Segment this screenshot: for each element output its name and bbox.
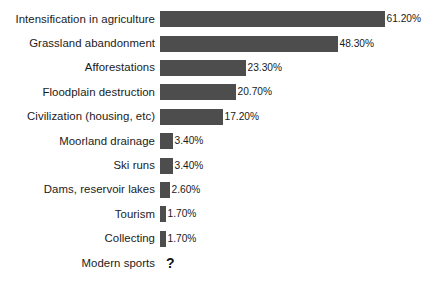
bar-and-value: 17.20% [160, 105, 259, 129]
value-label: 23.30% [246, 62, 282, 74]
bar-and-value: 48.30% [160, 31, 374, 55]
bar [160, 60, 246, 76]
bar-and-value: 20.70% [160, 80, 272, 104]
bar-and-value: 3.40% [160, 153, 203, 177]
bar-row: Grassland abandonment48.30% [0, 31, 437, 55]
value-label-unknown: ? [160, 257, 175, 269]
category-label: Intensification in agriculture [0, 13, 155, 26]
category-label: Dams, reservoir lakes [0, 183, 155, 196]
bar [160, 36, 338, 52]
bar [160, 109, 223, 125]
bar-row: Intensification in agriculture61.20% [0, 7, 437, 31]
bar-row: Dams, reservoir lakes2.60% [0, 178, 437, 202]
value-label: 61.20% [385, 13, 421, 25]
category-label: Floodplain destruction [0, 86, 155, 99]
bar-and-value: 2.60% [160, 178, 200, 202]
value-label: 1.70% [166, 208, 196, 220]
bar [160, 182, 170, 198]
bar-and-value: 23.30% [160, 56, 282, 80]
value-label: 1.70% [166, 233, 196, 245]
bar [160, 11, 385, 27]
bar-row: Ski runs3.40% [0, 153, 437, 177]
bar-and-value: 61.20% [160, 7, 421, 31]
bar-row: Afforestations23.30% [0, 56, 437, 80]
bar-row: Moorland drainage3.40% [0, 129, 437, 153]
bar-row: Floodplain destruction20.70% [0, 80, 437, 104]
value-label: 20.70% [236, 86, 272, 98]
value-label: 48.30% [338, 38, 374, 50]
bar-and-value: 1.70% [160, 202, 196, 226]
value-label: 2.60% [170, 184, 200, 196]
category-label: Ski runs [0, 159, 155, 172]
category-label: Collecting [0, 232, 155, 245]
bar [160, 84, 236, 100]
bar [160, 133, 173, 149]
category-label: Grassland abandonment [0, 37, 155, 50]
category-label: Moorland drainage [0, 135, 155, 148]
bar-and-value: 1.70% [160, 227, 196, 251]
value-label: 3.40% [173, 135, 203, 147]
bar-row: Collecting1.70% [0, 227, 437, 251]
value-label: 3.40% [173, 160, 203, 172]
bar-chart: Intensification in agriculture61.20%Gras… [0, 0, 437, 288]
bar-chart-rows: Intensification in agriculture61.20%Gras… [0, 7, 437, 275]
bar-row: Tourism1.70% [0, 202, 437, 226]
category-label: Tourism [0, 208, 155, 221]
category-label: Afforestations [0, 61, 155, 74]
bar-and-value: ? [160, 251, 175, 275]
bar-row: Modern sports? [0, 251, 437, 275]
category-label: Modern sports [0, 257, 155, 270]
bar-row: Civilization (housing, etc)17.20% [0, 105, 437, 129]
value-label: 17.20% [223, 111, 259, 123]
bar [160, 158, 173, 174]
bar-and-value: 3.40% [160, 129, 203, 153]
category-label: Civilization (housing, etc) [0, 110, 155, 123]
